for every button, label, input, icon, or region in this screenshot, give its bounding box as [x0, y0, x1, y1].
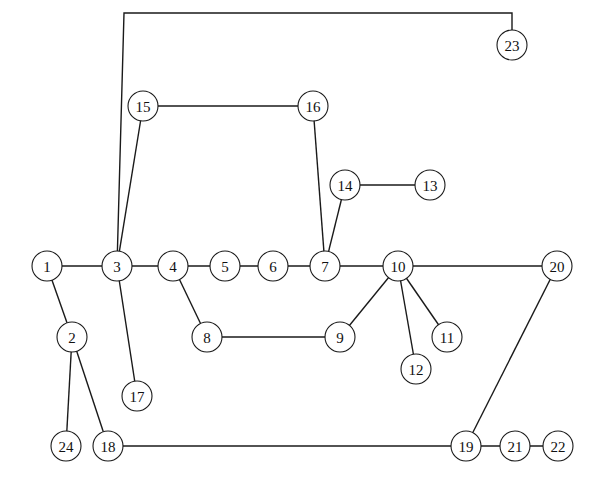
node-19: 19 [451, 431, 481, 461]
node-label: 13 [423, 178, 438, 194]
node-23: 23 [497, 30, 527, 60]
node-label: 22 [551, 439, 566, 455]
node-5: 5 [210, 251, 240, 281]
node-label: 20 [550, 259, 565, 275]
edge-10-12 [398, 266, 416, 369]
node-7: 7 [310, 251, 340, 281]
node-label: 23 [505, 38, 520, 54]
node-12: 12 [401, 354, 431, 384]
node-label: 7 [321, 259, 329, 275]
node-label: 9 [336, 330, 344, 346]
node-label: 1 [43, 259, 51, 275]
network-graph: 123456789101112131415161718192021222324 [0, 0, 605, 493]
node-label: 17 [130, 389, 146, 405]
node-14: 14 [330, 170, 360, 200]
node-label: 11 [440, 330, 454, 346]
edge-20-19 [466, 266, 557, 446]
node-label: 4 [169, 259, 177, 275]
node-label: 8 [203, 330, 211, 346]
node-21: 21 [500, 431, 530, 461]
node-label: 2 [68, 330, 76, 346]
node-label: 21 [508, 439, 523, 455]
node-label: 3 [113, 259, 121, 275]
node-16: 16 [298, 91, 328, 121]
node-24: 24 [51, 431, 81, 461]
node-22: 22 [543, 431, 573, 461]
node-label: 14 [338, 178, 354, 194]
node-10: 10 [383, 251, 413, 281]
node-15: 15 [128, 91, 158, 121]
node-1: 1 [32, 251, 62, 281]
node-label: 12 [409, 362, 424, 378]
edge-2-24 [66, 337, 72, 446]
edge-layer [47, 13, 558, 446]
node-20: 20 [542, 251, 572, 281]
edge-3-23 [117, 13, 512, 266]
node-6: 6 [258, 251, 288, 281]
node-label: 15 [136, 99, 151, 115]
node-3: 3 [102, 251, 132, 281]
node-2: 2 [57, 322, 87, 352]
node-11: 11 [432, 322, 462, 352]
node-18: 18 [93, 431, 123, 461]
node-4: 4 [158, 251, 188, 281]
node-13: 13 [415, 170, 445, 200]
node-17: 17 [122, 381, 152, 411]
node-label: 19 [459, 439, 474, 455]
node-label: 10 [391, 259, 406, 275]
node-label: 24 [59, 439, 75, 455]
node-label: 18 [101, 439, 116, 455]
node-label: 6 [269, 259, 277, 275]
node-label: 16 [306, 99, 322, 115]
node-9: 9 [325, 322, 355, 352]
edge-2-18 [72, 337, 108, 446]
edge-3-17 [117, 266, 137, 396]
edge-7-16 [313, 106, 325, 266]
node-label: 5 [221, 259, 229, 275]
node-8: 8 [192, 322, 222, 352]
